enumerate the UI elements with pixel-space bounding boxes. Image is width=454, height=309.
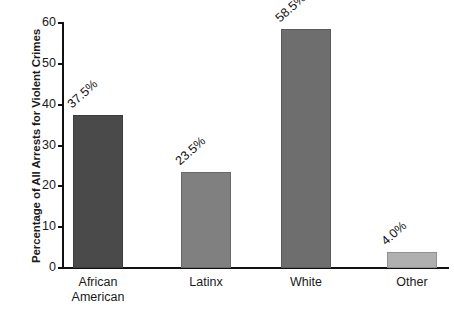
bar-chart: Percentage of All Arrests for Violent Cr…: [0, 0, 454, 309]
bar[interactable]: [281, 29, 331, 268]
bar-value-label: 37.5%: [65, 77, 101, 111]
bar-value-label: 58.5%: [273, 0, 309, 25]
bar-group[interactable]: 58.5%: [281, 29, 331, 268]
bar[interactable]: [73, 115, 123, 268]
bar-value-label: 23.5%: [173, 134, 209, 168]
bar[interactable]: [387, 252, 437, 268]
bar-value-label: 4.0%: [379, 218, 410, 247]
bar-group[interactable]: 23.5%: [181, 172, 231, 268]
bar-group[interactable]: 37.5%: [73, 115, 123, 268]
plot-area: 37.5%23.5%58.5%4.0%: [0, 0, 454, 309]
x-category-label: Other: [347, 275, 454, 290]
bar-group[interactable]: 4.0%: [387, 252, 437, 268]
bar[interactable]: [181, 172, 231, 268]
